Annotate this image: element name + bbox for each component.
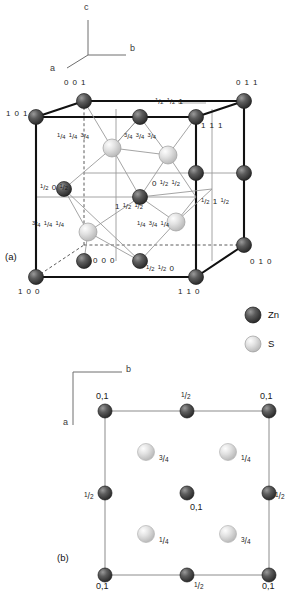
s-proj-top-left xyxy=(138,444,155,461)
label-proj-s-bl: 1/4 xyxy=(159,537,169,546)
label-proj-zn-bl: 0,1 xyxy=(96,582,109,591)
axis-label-a-b: a xyxy=(63,418,68,427)
label-proj-zn-ml: 1/2 xyxy=(84,492,94,501)
label-corner-111: 1 1 1 xyxy=(201,122,223,130)
legend-label-s: S xyxy=(268,339,274,349)
label-proj-zn-br: 0,1 xyxy=(262,582,275,591)
axis-label-b-a: b xyxy=(130,44,135,53)
legend-label-zn: Zn xyxy=(268,310,279,320)
label-proj-zn-mr: 1/2 xyxy=(275,492,285,501)
label-zn-left: 1/2 0 1/2 xyxy=(40,184,68,192)
label-proj-zn-tr: 0,1 xyxy=(260,392,273,401)
zn-corner-101 xyxy=(29,110,44,125)
label-corner-011: 0 1 1 xyxy=(236,79,258,87)
zn-proj-tm xyxy=(180,404,194,418)
zn-corner-011 xyxy=(237,94,252,109)
label-corner-100: 1 0 0 xyxy=(18,288,40,296)
label-proj-zn-bm: 1/2 xyxy=(194,582,204,591)
label-proj-zn-tl: 0,1 xyxy=(96,392,109,401)
axis-label-b-b: b xyxy=(126,365,131,374)
label-s-lower-left: 3/4 1/4 1/4 xyxy=(32,221,64,229)
label-proj-s-br: 3/4 xyxy=(241,537,251,546)
axis-a-line xyxy=(67,55,88,68)
label-corner-000: 0 0 0 xyxy=(93,257,115,265)
label-proj-s-tr: 1/4 xyxy=(241,455,251,464)
axis-label-c-a: c xyxy=(84,3,89,12)
label-zn-center: 0 1/2 1/2 xyxy=(152,180,180,188)
zinc-blende-figure: c b a 0 0 1 0 1 1 1 0 1 1 1 1 1 0 0 1 1 … xyxy=(0,0,292,599)
zn-corner-100 xyxy=(29,270,44,285)
legend-s-sphere xyxy=(245,336,261,352)
s-upper-left xyxy=(103,139,121,157)
panel-tag-a: (a) xyxy=(5,252,17,262)
label-s-upper-right: 3/4 3/4 3/4 xyxy=(124,133,156,141)
s-lower-left xyxy=(79,223,97,241)
figure-canvas xyxy=(0,0,292,599)
panel-a-s-atoms xyxy=(79,139,185,241)
zn-proj-mr xyxy=(262,486,276,500)
zn-corner-110 xyxy=(189,270,204,285)
label-s-upper-left: 1/4 1/4 3/4 xyxy=(57,133,89,141)
s-proj-top-right xyxy=(220,444,237,461)
label-s-lower-right: 1/4 3/4 1/4 xyxy=(137,221,169,229)
s-proj-bottom-right xyxy=(220,526,237,543)
zn-proj-mc xyxy=(180,486,194,500)
zn-proj-ml xyxy=(98,486,112,500)
label-zn-top: 1/2 1/2 1 xyxy=(155,98,183,106)
zn-corner-001 xyxy=(77,94,92,109)
zn-proj-br xyxy=(262,568,276,582)
s-upper-right xyxy=(159,146,177,164)
panel-tag-b: (b) xyxy=(57,553,69,563)
zn-face-right xyxy=(237,166,252,181)
zn-proj-bm xyxy=(180,568,194,582)
label-corner-010: 0 1 0 xyxy=(250,258,272,266)
axis-label-a-a: a xyxy=(50,64,55,73)
label-corner-101: 1 0 1 xyxy=(6,110,28,118)
zn-corner-000 xyxy=(77,254,92,269)
edge-br-diag xyxy=(196,245,244,277)
zn-proj-tl xyxy=(98,404,112,418)
zn-proj-bl xyxy=(98,568,112,582)
axis-triad-a xyxy=(67,20,126,68)
zn-face-top xyxy=(133,110,148,125)
legend-markers xyxy=(245,307,261,352)
panel-b-zn-atoms xyxy=(98,404,276,582)
zn-face-center xyxy=(189,166,204,181)
label-zn-right: 1/2 1 1/2 xyxy=(201,198,229,206)
label-corner-001: 0 0 1 xyxy=(64,79,86,87)
label-zn-front: 1 1/2 1/2 xyxy=(115,203,143,211)
label-zn-bottom: 1/2 1/2 0 xyxy=(146,265,174,273)
label-proj-zn-tm: 1/2 xyxy=(181,392,191,401)
label-proj-s-tl: 3/4 xyxy=(159,455,169,464)
zn-corner-010 xyxy=(237,238,252,253)
zn-proj-tr xyxy=(262,404,276,418)
label-corner-110: 1 1 0 xyxy=(178,288,200,296)
label-proj-zn-mc: 0,1 xyxy=(190,503,203,512)
s-proj-bottom-left xyxy=(138,526,155,543)
legend-zn-sphere xyxy=(245,307,261,323)
s-lower-right xyxy=(167,213,185,231)
